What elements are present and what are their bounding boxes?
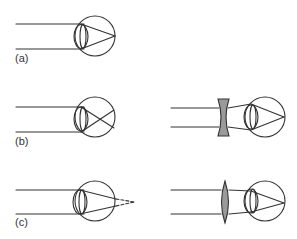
eyeball-icon	[75, 181, 115, 221]
panel-label-c: (c)	[15, 217, 28, 228]
eye-lens-icon	[250, 105, 256, 129]
panel-c-hyperopic-eye	[16, 181, 134, 221]
eye-lens-icon	[80, 25, 86, 49]
panel-label-b: (b)	[15, 136, 28, 147]
panel-b-corrected	[171, 97, 285, 137]
eye-lens-icon	[79, 190, 85, 214]
concave-lens-icon	[218, 99, 229, 136]
convex-lens-icon	[222, 181, 229, 223]
panel-label-a: (a)	[15, 53, 28, 64]
eye-lens-icon	[80, 107, 86, 131]
eyeball-icon	[245, 97, 285, 137]
eyeball-icon	[75, 16, 115, 56]
virtual-ray-top	[116, 199, 134, 202]
eye-refraction-diagram: (a) (b) (c)	[0, 0, 297, 239]
panel-b-myopic-eye	[16, 97, 115, 137]
diagram-graphic	[0, 0, 297, 239]
panel-c-corrected	[171, 181, 285, 223]
virtual-ray-bottom	[116, 202, 134, 206]
panel-a-normal-eye	[16, 16, 115, 56]
